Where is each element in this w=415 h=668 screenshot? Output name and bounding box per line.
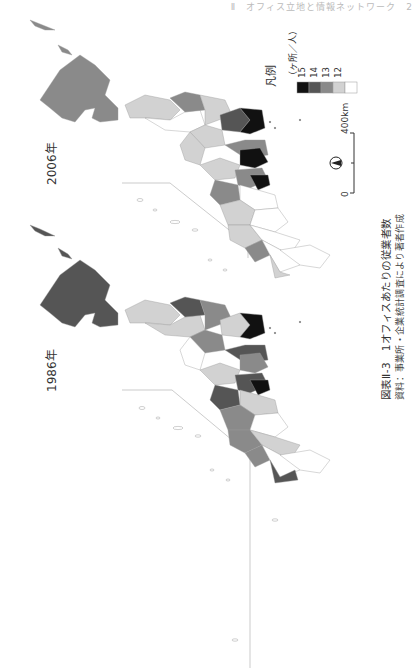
legend-label-12: 12	[333, 67, 343, 78]
figure-caption-title: 図表Ⅱ-3 1オフィスあたりの従業者数	[378, 218, 393, 400]
legend-label-13: 13	[321, 67, 331, 78]
map-canvas	[0, 0, 415, 668]
legend-title: 凡例	[262, 65, 278, 87]
legend-label-15: 15	[297, 67, 307, 78]
scale-start-label: 0	[340, 191, 350, 197]
scale-end-label: 400km	[340, 103, 350, 134]
north-arrow-icon	[330, 157, 342, 169]
year-label-2006: 2006年	[42, 142, 59, 185]
map-1986	[30, 225, 330, 668]
legend-label-14: 14	[309, 67, 319, 78]
scale-bar	[350, 133, 354, 193]
figure-caption-source: 資料：事業所・企業統計調査により著者作成	[393, 214, 406, 400]
map-2006	[30, 20, 330, 278]
year-label-1986: 1986年	[42, 349, 59, 392]
legend-swatches	[297, 82, 357, 93]
